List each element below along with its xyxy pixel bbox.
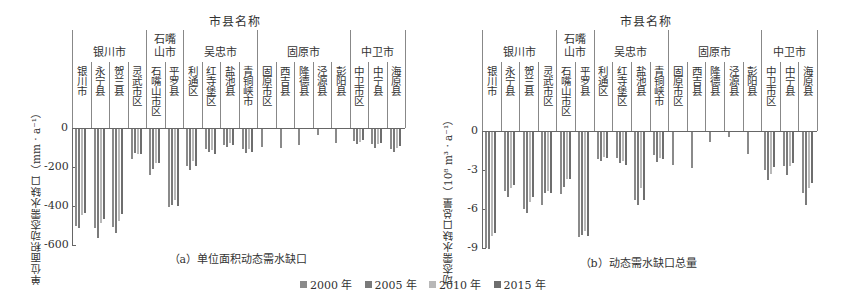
bar-利通区-2005 年 xyxy=(189,129,191,170)
city-divider xyxy=(350,30,351,128)
county-label: 石嘴山市区 xyxy=(560,66,571,129)
bar-贺兰县-2010 年 xyxy=(529,132,531,202)
bar-灵武市区-2000 年 xyxy=(541,132,543,205)
bar-利通区-2000 年 xyxy=(597,132,599,159)
bar-永宁县-2000 年 xyxy=(504,132,506,191)
bar-中卫市区-2010 年 xyxy=(770,132,772,174)
city-divider xyxy=(257,30,258,128)
county-divider xyxy=(239,62,240,128)
bar-盐池县-2015 年 xyxy=(643,132,645,200)
bar-石嘴山市区-2010 年 xyxy=(566,132,568,179)
bar-石嘴山市区-2005 年 xyxy=(563,132,565,187)
county-label: 贺兰县 xyxy=(523,66,534,129)
city-name: 中卫市 xyxy=(350,46,406,59)
bar-中宁县-2005 年 xyxy=(374,129,376,148)
legend-swatch-icon xyxy=(494,281,501,288)
county-label: 彭阳县 xyxy=(334,66,345,126)
bar-彭阳县-2000 年 xyxy=(335,129,337,143)
bar-中宁县-2010 年 xyxy=(377,129,379,144)
bar-盐池县-2005 年 xyxy=(637,132,639,205)
bar-灵武市区-2005 年 xyxy=(134,129,136,153)
county-divider xyxy=(705,62,706,131)
county-label: 彭阳县 xyxy=(746,66,757,129)
bar-红寺堡区-2015 年 xyxy=(625,132,627,165)
bar-中卫市区-2015 年 xyxy=(362,129,364,140)
bar-平罗县-2005 年 xyxy=(171,129,173,205)
county-label: 中卫市区 xyxy=(353,66,364,126)
county-label: 隆德县 xyxy=(709,66,720,129)
county-label: 海原县 xyxy=(802,66,813,129)
bar-海原县-2010 年 xyxy=(396,129,398,148)
bar-海原县-2010 年 xyxy=(808,132,810,188)
city-label-0: 银川市 xyxy=(482,46,556,59)
county-label: 银川市 xyxy=(75,66,86,126)
bar-海原县-2015 年 xyxy=(399,129,401,146)
bar-固原市区-2000 年 xyxy=(672,132,674,165)
chart-caption: （a）单位面积动态需水缺口 xyxy=(169,250,308,266)
city-name: 银川市 xyxy=(72,46,146,59)
bar-中宁县-2000 年 xyxy=(371,129,373,144)
bar-隆德县-2000 年 xyxy=(709,132,711,142)
y-axis xyxy=(72,128,73,245)
bar-红寺堡区-2005 年 xyxy=(208,129,210,152)
county-divider xyxy=(331,62,332,128)
county-label: 红寺堡区 xyxy=(205,66,216,126)
county-divider xyxy=(294,62,295,128)
county-divider xyxy=(538,62,539,131)
bar-平罗县-2000 年 xyxy=(578,132,580,237)
super-title: 市县名称 xyxy=(209,12,261,29)
city-label-2: 吴忠市 xyxy=(183,46,257,59)
legend-item-2005: 2005 年 xyxy=(365,276,418,292)
city-name: 银川市 xyxy=(482,46,556,59)
frame-right xyxy=(405,30,406,128)
bar-利通区-2015 年 xyxy=(606,132,608,158)
bar-银川市-2010 年 xyxy=(491,132,493,236)
bar-红寺堡区-2010 年 xyxy=(211,129,213,150)
county-label: 隆德县 xyxy=(297,66,308,126)
bar-银川市-2015 年 xyxy=(84,129,86,213)
city-name: 中卫市 xyxy=(761,46,817,59)
county-divider xyxy=(501,62,502,131)
bar-彭阳县-2000 年 xyxy=(747,132,749,154)
bar-青铜峡市-2000 年 xyxy=(242,129,244,149)
bar-盐池县-2000 年 xyxy=(634,132,636,200)
county-label: 永宁县 xyxy=(504,66,515,129)
county-divider xyxy=(313,62,314,128)
county-label: 海原县 xyxy=(390,66,401,126)
super-title: 市县名称 xyxy=(620,12,672,29)
county-divider xyxy=(798,62,799,131)
bar-石嘴山市区-2005 年 xyxy=(152,129,154,169)
y-tick-label: -9 xyxy=(454,241,478,254)
bar-利通区-2000 年 xyxy=(186,129,188,166)
bar-贺兰县-2000 年 xyxy=(112,129,114,227)
legend-item-2010: 2010 年 xyxy=(429,276,482,292)
county-label: 西吉县 xyxy=(690,66,701,129)
bar-贺兰县-2010 年 xyxy=(118,129,120,221)
city-name: 石嘴 xyxy=(556,33,593,46)
y-axis xyxy=(482,131,483,248)
city-label-0: 银川市 xyxy=(72,46,146,59)
county-divider xyxy=(276,62,277,128)
legend: 2000 年 2005 年 2010 年 2015 年 xyxy=(300,276,546,292)
bar-永宁县-2015 年 xyxy=(513,132,515,185)
legend-swatch-icon xyxy=(429,281,436,288)
bar-灵武市区-2015 年 xyxy=(140,129,142,154)
county-divider xyxy=(724,62,725,131)
city-label-3: 固原市 xyxy=(668,46,761,59)
county-label: 泾源县 xyxy=(727,66,738,129)
bar-西吉县-2000 年 xyxy=(280,129,282,148)
city-divider xyxy=(72,30,73,128)
bar-海原县-2005 年 xyxy=(805,132,807,205)
bar-灵武市区-2015 年 xyxy=(550,132,552,193)
county-divider xyxy=(780,62,781,131)
y-tick-label: -200 xyxy=(44,160,68,173)
county-divider xyxy=(631,62,632,131)
bar-红寺堡区-2005 年 xyxy=(619,132,621,163)
bar-利通区-2010 年 xyxy=(603,132,605,157)
bar-中卫市区-2000 年 xyxy=(764,132,766,170)
county-label: 贺兰县 xyxy=(112,66,123,126)
county-label: 利通区 xyxy=(597,66,608,129)
bar-海原县-2015 年 xyxy=(811,132,813,183)
bar-青铜峡市-2015 年 xyxy=(662,132,664,159)
bar-贺兰县-2005 年 xyxy=(526,132,528,213)
